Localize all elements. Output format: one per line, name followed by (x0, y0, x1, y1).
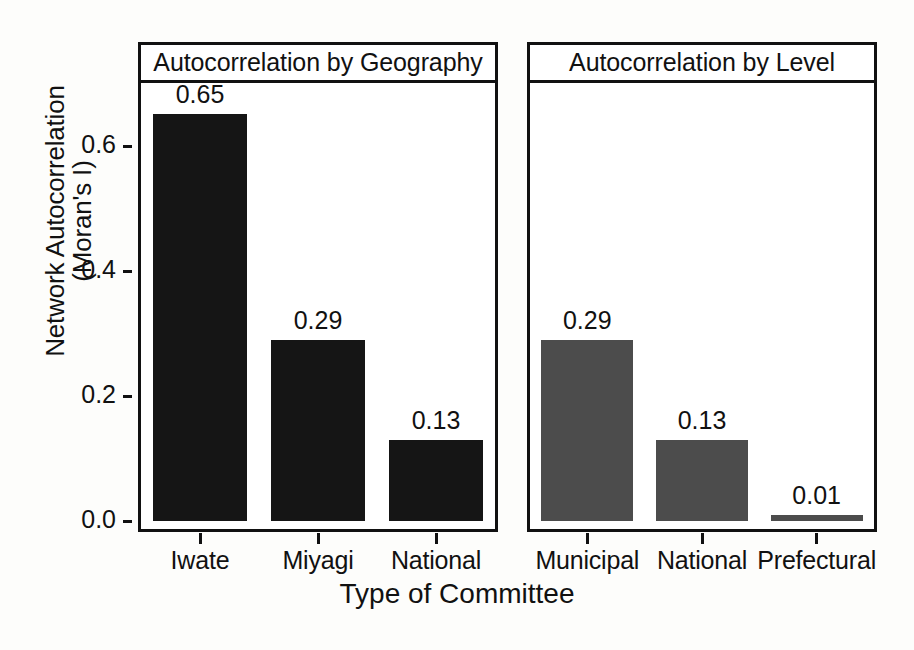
bar-rect[interactable] (271, 340, 365, 521)
bar-item[interactable]: 0.65 (153, 82, 247, 521)
panel-strip-header: Autocorrelation by Geography (138, 42, 498, 83)
x-axis-tick-mark (701, 533, 704, 544)
x-axis-tick-label: National (657, 546, 747, 575)
bar-item[interactable]: 0.13 (389, 408, 483, 521)
bar-item[interactable]: 0.01 (771, 483, 863, 521)
bar-rect[interactable] (771, 515, 863, 521)
y-axis-tick-mark (123, 145, 132, 148)
x-axis-tick-mark (586, 533, 589, 544)
bar-group: 0.650.290.13 (141, 83, 495, 529)
bar-item[interactable]: 0.29 (541, 308, 633, 521)
bar-value-label: 0.65 (176, 82, 225, 107)
x-axis-tick-label: National (391, 546, 481, 575)
y-axis-tick-label: 0.6 (81, 130, 116, 159)
chart-panel: Autocorrelation by Level0.290.130.01 (527, 42, 877, 532)
y-axis-tick-label: 0.4 (81, 255, 116, 284)
y-axis-tick-mark (123, 270, 132, 273)
bar-value-label: 0.13 (678, 408, 727, 433)
bar-value-label: 0.29 (563, 308, 612, 333)
x-axis-tick-mark (815, 533, 818, 544)
x-axis-tick-mark (317, 533, 320, 544)
x-axis-tick-mark (199, 533, 202, 544)
bar-value-label: 0.13 (412, 408, 461, 433)
y-axis-tick-label: 0.0 (81, 505, 116, 534)
bar-value-label: 0.01 (792, 483, 841, 508)
bar-rect[interactable] (389, 440, 483, 521)
panel-plot-area: 0.650.290.13 (138, 83, 498, 532)
panel-strip-header: Autocorrelation by Level (527, 42, 877, 83)
panel-plot-area: 0.290.130.01 (527, 83, 877, 532)
x-axis-tick-label: Prefectural (757, 546, 876, 575)
chart-figure: Network Autocorrelation (Moran's I) 0.00… (0, 0, 914, 650)
bar-rect[interactable] (153, 114, 247, 521)
y-axis-tick-mark (123, 395, 132, 398)
chart-panel: Autocorrelation by Geography0.650.290.13 (138, 42, 498, 532)
panel-strip-label: Autocorrelation by Geography (153, 48, 482, 77)
bar-group: 0.290.130.01 (530, 83, 874, 529)
bar-rect[interactable] (656, 440, 748, 521)
x-axis-tick-mark (435, 533, 438, 544)
bar-item[interactable]: 0.29 (271, 308, 365, 521)
x-axis-tick-label: Municipal (535, 546, 639, 575)
x-axis-tick-label: Miyagi (282, 546, 353, 575)
panel-strip-label: Autocorrelation by Level (569, 48, 835, 77)
x-axis-tick-label: Iwate (171, 546, 230, 575)
bar-rect[interactable] (541, 340, 633, 521)
bar-value-label: 0.29 (294, 308, 343, 333)
y-axis: 0.00.20.40.6 (0, 0, 132, 650)
bar-item[interactable]: 0.13 (656, 408, 748, 521)
y-axis-tick-mark (123, 520, 132, 523)
x-axis-title: Type of Committee (0, 578, 914, 610)
y-axis-tick-label: 0.2 (81, 380, 116, 409)
